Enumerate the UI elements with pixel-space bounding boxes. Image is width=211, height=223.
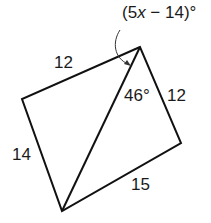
side-label-top-left: 12 xyxy=(54,54,73,71)
side-label-bottom-right: 15 xyxy=(131,176,150,193)
diagonal xyxy=(62,47,140,211)
angle-expression-label: (5x − 14)° xyxy=(122,4,196,21)
geometry-diagram: (5x − 14)° 12 46° 12 14 15 xyxy=(0,0,211,223)
angle-label-46: 46° xyxy=(124,87,150,104)
side-label-top-right: 12 xyxy=(167,87,186,104)
figure-canvas xyxy=(0,0,211,223)
angle-arrow xyxy=(115,30,128,64)
side-label-left-bottom: 14 xyxy=(12,146,31,163)
arrow-head-icon xyxy=(124,60,131,66)
